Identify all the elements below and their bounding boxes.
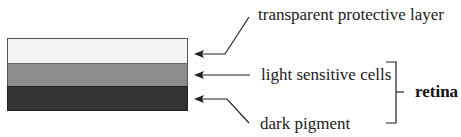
label-retina: retina: [415, 83, 458, 100]
retina-diagram: transparent protective layer light sensi…: [0, 0, 461, 137]
label-transparent-protective-layer: transparent protective layer: [258, 6, 444, 23]
arrow-bottom-line: [200, 99, 249, 123]
label-dark-pigment: dark pigment: [260, 115, 350, 132]
arrow-top-line: [200, 17, 249, 54]
label-light-sensitive-cells: light sensitive cells: [261, 66, 391, 83]
